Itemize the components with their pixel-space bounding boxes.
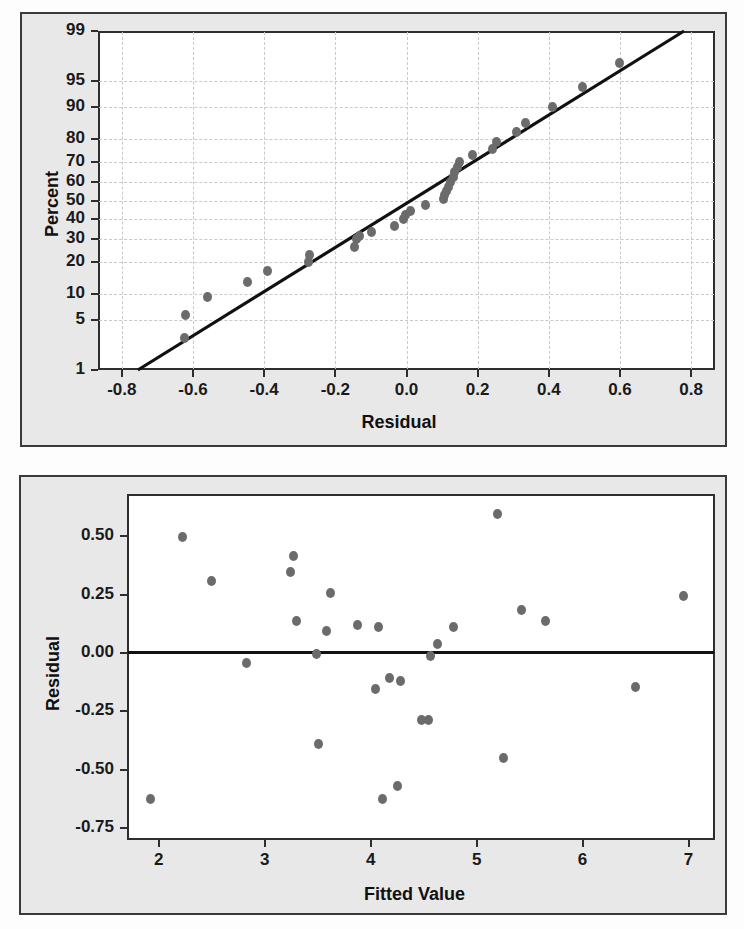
normal-reference-line bbox=[138, 31, 684, 370]
residuals-versus-fits-panel: 2345670.500.250.00-0.25-0.50-0.75 Residu… bbox=[19, 475, 727, 915]
x-tick-label: 3 bbox=[235, 850, 295, 870]
normal-x-axis-title: Residual bbox=[362, 412, 437, 433]
figure-page: -0.8-0.6-0.4-0.20.00.20.40.60.8151020304… bbox=[0, 0, 744, 929]
x-tickmark bbox=[158, 840, 160, 847]
x-tickmark bbox=[370, 840, 372, 847]
data-point bbox=[378, 794, 387, 804]
data-point bbox=[207, 576, 216, 586]
data-point bbox=[499, 753, 508, 763]
data-point bbox=[455, 157, 464, 167]
x-tick-label: 7 bbox=[659, 850, 719, 870]
x-tickmark bbox=[476, 840, 478, 847]
y-tickmark bbox=[120, 710, 127, 712]
data-point bbox=[322, 626, 331, 636]
y-tick-label: -0.75 bbox=[35, 817, 114, 837]
versus-x-axis-title: Fitted Value bbox=[364, 884, 465, 905]
data-point bbox=[393, 781, 402, 791]
y-tick-label: -0.50 bbox=[35, 759, 114, 779]
data-point bbox=[146, 794, 155, 804]
data-point bbox=[541, 616, 550, 626]
data-point bbox=[396, 676, 405, 686]
zero-reference-line bbox=[128, 651, 714, 654]
data-point bbox=[326, 588, 335, 598]
data-point bbox=[289, 551, 298, 561]
y-tickmark bbox=[120, 652, 127, 654]
data-point bbox=[390, 221, 399, 231]
data-point bbox=[374, 622, 383, 632]
y-tick-label: 0.50 bbox=[35, 525, 114, 545]
data-point bbox=[385, 673, 394, 683]
data-point bbox=[243, 277, 252, 287]
x-tickmark bbox=[582, 840, 584, 847]
y-tick-label: 0.25 bbox=[35, 584, 114, 604]
x-tick-label: 6 bbox=[553, 850, 613, 870]
data-point bbox=[433, 639, 442, 649]
y-tickmark bbox=[120, 827, 127, 829]
versus-plot-frame bbox=[127, 494, 715, 840]
data-point bbox=[421, 200, 430, 210]
data-point bbox=[492, 137, 501, 147]
data-point bbox=[178, 532, 187, 542]
data-point bbox=[406, 206, 415, 216]
data-point bbox=[517, 605, 526, 615]
y-tickmark bbox=[120, 535, 127, 537]
data-point bbox=[355, 231, 364, 241]
data-point bbox=[426, 651, 435, 661]
data-point bbox=[180, 333, 189, 343]
data-point bbox=[468, 150, 477, 160]
data-point bbox=[181, 310, 190, 320]
x-tick-label: 4 bbox=[341, 850, 401, 870]
data-point bbox=[631, 682, 640, 692]
y-tickmark bbox=[120, 769, 127, 771]
data-point bbox=[305, 250, 314, 260]
normal-probability-panel: -0.8-0.6-0.4-0.20.00.20.40.60.8151020304… bbox=[20, 12, 727, 447]
data-point bbox=[449, 622, 458, 632]
x-tickmark bbox=[264, 840, 266, 847]
x-tick-label: 5 bbox=[447, 850, 507, 870]
x-tickmark bbox=[688, 840, 690, 847]
data-point bbox=[548, 102, 557, 112]
versus-y-axis-title: Residual bbox=[43, 636, 64, 711]
data-point bbox=[286, 567, 295, 577]
y-tickmark bbox=[120, 594, 127, 596]
x-tick-label: 2 bbox=[129, 850, 189, 870]
normal-y-axis-title: Percent bbox=[42, 170, 63, 236]
